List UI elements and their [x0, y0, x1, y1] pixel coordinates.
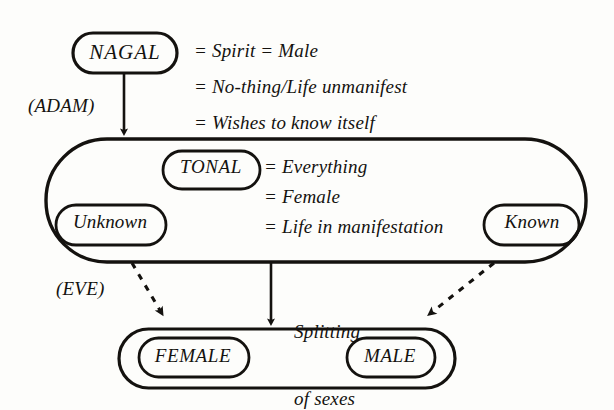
male-node-label: MALE [350, 345, 430, 367]
nagal-node-label: NAGAL [72, 40, 178, 64]
tonal-attribute-line-1: = Everything [264, 156, 367, 178]
arrow-unknown-to-female [132, 263, 161, 312]
splitting-label-line-1: Splitting [294, 321, 360, 343]
tonal-attribute-line-2: = Female [264, 186, 340, 208]
nagal-attribute-line-3: = Wishes to know itself [194, 112, 375, 134]
known-node-label: Known [490, 211, 574, 233]
diagram-canvas: NAGAL TONAL Unknown Known FEMALE MALE = … [0, 0, 614, 410]
eve-edge-label: (EVE) [56, 278, 104, 300]
arrow-known-to-male [431, 263, 494, 313]
adam-edge-label: (ADAM) [28, 95, 95, 117]
nagal-attribute-line-2: = No-thing/Life unmanifest [194, 76, 407, 98]
unknown-node-label: Unknown [60, 211, 160, 233]
tonal-attribute-line-3: = Life in manifestation [264, 216, 443, 238]
nagal-attribute-line-1: = Spirit = Male [194, 40, 318, 62]
splitting-of-sexes-label: Splitting of sexes [294, 276, 360, 410]
tonal-node-label: TONAL [166, 156, 256, 178]
splitting-label-line-2: of sexes [294, 388, 360, 410]
female-node-label: FEMALE [142, 345, 244, 367]
